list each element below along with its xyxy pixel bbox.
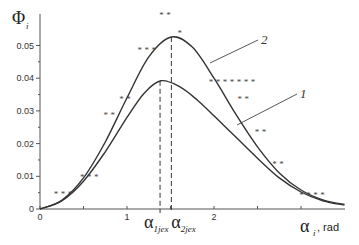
star-marker: *** bbox=[54, 189, 75, 199]
curve-1-label: 1 bbox=[300, 86, 307, 101]
x-tick-label: 1 bbox=[124, 212, 129, 222]
x-axis-label: α bbox=[300, 216, 310, 236]
star-marker: ** bbox=[237, 94, 251, 104]
x-tick-label: 2 bbox=[211, 212, 216, 222]
star-marker: * bbox=[177, 28, 184, 38]
star-marker: ** bbox=[272, 159, 286, 169]
star-marker: *** bbox=[80, 172, 101, 182]
star-marker: ** bbox=[103, 110, 117, 120]
y-axis-label: Φ bbox=[12, 8, 25, 28]
vline-label-2jex: α2jex bbox=[171, 212, 195, 234]
chart: 00.010.020.030.040.05012 α1jexα2jex12 **… bbox=[0, 0, 359, 245]
vline-label-1jex: α1jex bbox=[144, 212, 168, 234]
y-tick-label: 0 bbox=[29, 204, 34, 214]
star-marker: ** bbox=[119, 94, 133, 104]
y-axis-label-sub: i bbox=[26, 21, 29, 31]
star-marker: *** bbox=[137, 45, 158, 55]
x-axis-label-sub: i bbox=[313, 228, 316, 238]
star-marker: ** bbox=[255, 127, 269, 137]
labels: Φ i α i , rad bbox=[12, 8, 339, 238]
y-tick-label: 0.02 bbox=[16, 139, 34, 149]
y-tick-label: 0.03 bbox=[16, 106, 34, 116]
star-marker: **** bbox=[299, 190, 327, 200]
x-tick-label: 0 bbox=[37, 212, 42, 222]
star-marker: ******* bbox=[209, 77, 258, 87]
y-tick-label: 0.05 bbox=[16, 41, 34, 51]
series-2-line bbox=[40, 37, 345, 209]
markers: ********************************* bbox=[54, 10, 327, 200]
curves: α1jexα2jex12 bbox=[40, 32, 345, 234]
y-tick-label: 0.04 bbox=[16, 73, 34, 83]
curve-2-leader bbox=[210, 40, 258, 63]
x-axis-unit: , rad bbox=[317, 221, 339, 233]
y-tick-label: 0.01 bbox=[16, 171, 34, 181]
star-marker: ** bbox=[159, 10, 173, 20]
curve-2-label: 2 bbox=[261, 32, 268, 47]
